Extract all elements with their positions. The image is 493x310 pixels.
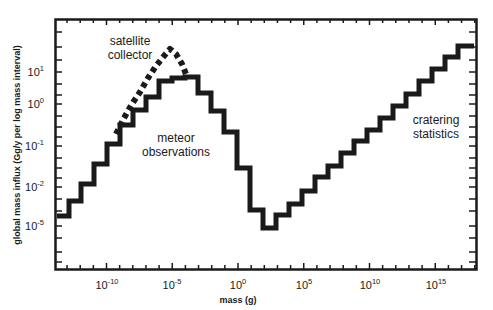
y-tick-label: 10-5	[25, 218, 44, 232]
annotation-line: observations	[142, 145, 210, 159]
annotation-meteor-observations: meteor observations	[142, 131, 210, 159]
annotation-line: statistics	[413, 127, 459, 141]
x-tick-label: 105	[296, 277, 312, 291]
chart: 101 100 10-1 10-2 10-5 10-10 10-5 100 10…	[0, 0, 493, 310]
mass-influx-step-series	[57, 46, 474, 228]
y-tick-labels: 101 100 10-1 10-2 10-5	[25, 64, 44, 232]
annotation-line: meteor	[157, 131, 194, 145]
annotation-line: satellite	[110, 34, 151, 48]
x-tick-label: 10-5	[163, 277, 182, 291]
y-axis-title: global mass influx (Gg/y per log mass in…	[12, 45, 22, 245]
x-tick-label: 100	[230, 277, 246, 291]
annotation-cratering-statistics: cratering statistics	[413, 113, 460, 141]
annotation-line: cratering	[413, 113, 460, 127]
annotation-satellite-collector: satellite collector	[108, 34, 153, 62]
x-tick-label: 1010	[360, 277, 381, 291]
y-tick-label: 10-1	[25, 138, 44, 152]
y-tick-label: 10-2	[25, 179, 44, 193]
annotation-line: collector	[108, 48, 153, 62]
y-tick-label: 101	[28, 64, 44, 78]
x-tick-label: 1015	[426, 277, 447, 291]
x-tick-label: 10-10	[95, 277, 118, 291]
x-axis-title: mass (g)	[219, 295, 256, 305]
x-tick-labels: 10-10 10-5 100 105 1010 1015	[95, 277, 446, 291]
y-tick-label: 100	[28, 96, 44, 110]
